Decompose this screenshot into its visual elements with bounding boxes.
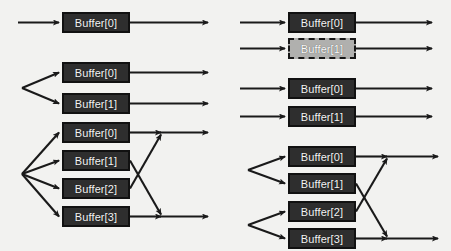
buffer-box-right-quad-2[interactable]: Buffer[2] [288, 201, 356, 222]
buffer-box-left-quad-0[interactable]: Buffer[0] [62, 122, 130, 143]
buffer-box-left-quad-1[interactable]: Buffer[1] [62, 150, 130, 171]
buffer-box-label: Buffer[1] [301, 111, 343, 123]
wire-right-quad-merge-1 [356, 184, 387, 237]
wire-right-quad-fanB-3 [248, 225, 285, 239]
buffer-box-left-dual-0[interactable]: Buffer[0] [62, 62, 130, 83]
wire-left-quad-merge-2 [130, 135, 161, 189]
buffer-box-right-dual-disabled-0[interactable]: Buffer[0] [288, 12, 356, 33]
buffer-box-right-quad-0[interactable]: Buffer[0] [288, 146, 356, 167]
buffer-box-left-single-0[interactable]: Buffer[0] [62, 12, 130, 33]
wire-left-dual-fan-0 [22, 73, 59, 89]
wire-left-quad-merge-1 [130, 161, 161, 215]
buffer-box-right-quad-1[interactable]: Buffer[1] [288, 173, 356, 194]
buffer-box-label: Buffer[1] [75, 155, 117, 167]
buffer-box-right-dual-0[interactable]: Buffer[0] [288, 78, 356, 99]
buffer-box-label: Buffer[0] [75, 17, 117, 29]
diagram-canvas: Buffer[0]Buffer[0]Buffer[1]Buffer[0]Buff… [0, 0, 451, 251]
buffer-box-label: Buffer[1] [301, 43, 343, 55]
wire-right-quad-fanA-1 [248, 170, 285, 184]
buffer-box-label: Buffer[0] [75, 67, 117, 79]
buffer-box-left-quad-3[interactable]: Buffer[3] [62, 206, 130, 227]
buffer-box-label: Buffer[2] [301, 206, 343, 218]
wire-right-quad-fanA-0 [248, 157, 285, 171]
buffer-box-label: Buffer[0] [301, 17, 343, 29]
buffer-box-label: Buffer[2] [75, 183, 117, 195]
wire-right-quad-fanB-2 [248, 212, 285, 226]
buffer-box-label: Buffer[0] [301, 83, 343, 95]
buffer-box-right-dual-1[interactable]: Buffer[1] [288, 106, 356, 127]
buffer-box-label: Buffer[1] [75, 98, 117, 110]
buffer-box-label: Buffer[1] [301, 178, 343, 190]
buffer-box-right-dual-disabled-1[interactable]: Buffer[1] [288, 38, 356, 59]
wire-left-dual-fan-1 [22, 88, 59, 104]
buffer-box-left-dual-1[interactable]: Buffer[1] [62, 93, 130, 114]
buffer-box-right-quad-3[interactable]: Buffer[3] [288, 228, 356, 249]
buffer-box-label: Buffer[3] [75, 211, 117, 223]
buffer-box-label: Buffer[0] [75, 127, 117, 139]
buffer-box-label: Buffer[3] [301, 233, 343, 245]
buffer-box-left-quad-2[interactable]: Buffer[2] [62, 178, 130, 199]
wire-right-quad-merge-2 [356, 159, 387, 212]
buffer-box-label: Buffer[0] [301, 151, 343, 163]
